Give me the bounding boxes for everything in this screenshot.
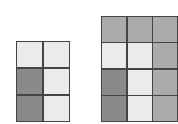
grid-cell (44, 69, 69, 94)
grid-cell (153, 17, 177, 42)
grid-cell (17, 69, 42, 94)
grid-cell (128, 70, 152, 95)
grid-cell (153, 43, 177, 68)
grid-cell (44, 96, 69, 121)
grid-cell (128, 17, 152, 42)
grid-cell (102, 70, 126, 95)
grid-cell (128, 96, 152, 121)
grid-cell (17, 96, 42, 121)
grid-cell (102, 17, 126, 42)
grid-cell (102, 96, 126, 121)
grid-cell (17, 42, 42, 67)
grid-cell (128, 43, 152, 68)
left-grid (16, 41, 70, 122)
grid-cell (153, 96, 177, 121)
grid-cell (44, 42, 69, 67)
grid-cell (102, 43, 126, 68)
right-grid (101, 16, 178, 122)
grid-cell (153, 70, 177, 95)
